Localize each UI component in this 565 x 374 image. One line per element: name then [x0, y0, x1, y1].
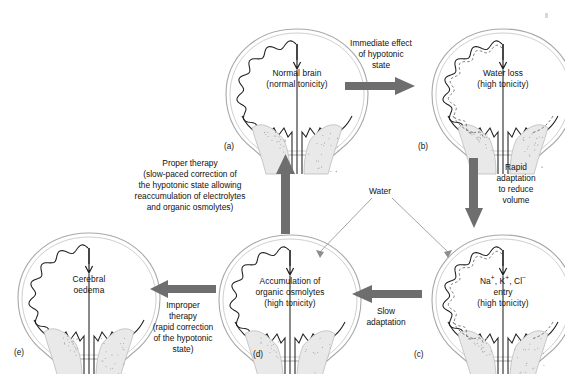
annotation-immediate-effect: Immediate effect of hypotonic state	[334, 38, 428, 71]
annotation-improper-therapy: Improper therapy (rapid correction of th…	[143, 300, 223, 355]
arrow-a-to-b	[345, 74, 417, 98]
water-leader-lines	[300, 192, 500, 282]
brain-illustration-e	[14, 228, 164, 374]
water-label: Water	[350, 186, 410, 196]
improper-therapy-line3: (rapid correction	[143, 322, 223, 333]
rapid-adaptation-line4: volume	[484, 195, 548, 206]
proper-therapy-line3: the hypotonic state allowing	[110, 180, 270, 191]
improper-therapy-line4: of the hypotonic	[143, 333, 223, 344]
annotation-slow-adaptation: Slow adaptation	[350, 306, 422, 328]
proper-therapy-line2: (slow-paced correction of	[110, 169, 270, 180]
panel-e-cerebral-oedema: Cerebral oedema (e)	[14, 228, 164, 374]
proper-therapy-line1: Proper therapy	[110, 158, 270, 169]
proper-therapy-line4: reaccumulation of electrolytes	[110, 191, 270, 202]
arrow-d-to-e	[148, 277, 216, 301]
immediate-effect-line1: Immediate effect	[334, 38, 428, 49]
panel-a-label: (a)	[224, 142, 234, 151]
slow-adaptation-line2: adaptation	[350, 317, 422, 328]
corner-mark	[545, 13, 548, 18]
rapid-adaptation-line3: to reduce	[484, 184, 548, 195]
panel-c-label: (c)	[414, 350, 424, 359]
panel-e-label: (e)	[14, 348, 24, 357]
brain-illustration-b	[428, 24, 565, 174]
panel-b-water-loss: Water loss (high tonicity) (b)	[428, 24, 565, 174]
arrow-c-to-d	[350, 282, 422, 306]
panel-b-label: (b)	[418, 142, 428, 151]
annotation-proper-therapy: Proper therapy (slow-paced correction of…	[110, 158, 270, 213]
slow-adaptation-line1: Slow	[350, 306, 422, 317]
immediate-effect-line2: of hypotonic	[334, 49, 428, 60]
improper-therapy-line2: therapy	[143, 311, 223, 322]
panel-d-label: (d)	[253, 350, 263, 359]
improper-therapy-line5: state)	[143, 344, 223, 355]
figure-canvas: Normal brain (normal tonicity) (a) Water…	[0, 0, 565, 374]
arrow-d-to-a	[274, 152, 298, 234]
rapid-adaptation-line2: adaptation	[484, 173, 548, 184]
immediate-effect-line3: state	[334, 60, 428, 71]
proper-therapy-line5: and organic osmolytes)	[110, 202, 270, 213]
rapid-adaptation-line1: Rapid	[484, 162, 548, 173]
annotation-rapid-adaptation: Rapid adaptation to reduce volume	[484, 162, 548, 206]
improper-therapy-line1: Improper	[143, 300, 223, 311]
